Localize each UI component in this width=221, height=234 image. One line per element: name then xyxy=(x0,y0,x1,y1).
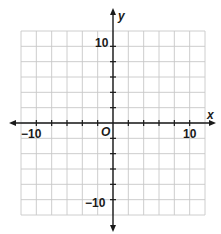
y-tick-label-pos10: 10 xyxy=(95,36,109,50)
x-tick-label-neg10: −10 xyxy=(21,127,42,141)
axes xyxy=(9,8,216,232)
origin-label: O xyxy=(101,125,111,139)
coordinate-plane: x y O −10 10 10 −10 xyxy=(0,0,221,234)
y-tick-label-neg10: −10 xyxy=(85,196,106,210)
y-axis-top-arrow-icon xyxy=(110,8,116,15)
y-axis-bottom-arrow-icon xyxy=(110,225,116,232)
x-axis-left-arrow-icon xyxy=(9,120,16,126)
y-axis-label: y xyxy=(117,9,126,23)
x-axis-label: x xyxy=(206,108,215,122)
x-tick-label-pos10: 10 xyxy=(183,127,197,141)
